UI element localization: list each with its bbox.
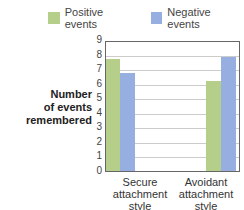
bar-negative xyxy=(120,73,135,171)
y-tick-label: 8 xyxy=(92,49,102,60)
y-tick-label: 4 xyxy=(92,107,102,118)
y-tick-label: 3 xyxy=(92,121,102,132)
legend-item-positive: Positive events xyxy=(48,6,137,30)
x-label-avoidant: Avoidant attachment style xyxy=(171,176,241,210)
bar-positive xyxy=(206,81,221,171)
bar-negative xyxy=(221,57,236,171)
x-label-secure: Secure attachment style xyxy=(105,176,175,210)
legend: Positive events Negative events xyxy=(48,6,244,30)
y-tick-label: 9 xyxy=(92,34,102,45)
plot-area xyxy=(105,41,240,172)
x-label-line: Avoidant xyxy=(171,176,241,188)
legend-label-negative: Negative events xyxy=(167,6,244,30)
y-tick-label: 0 xyxy=(92,165,102,176)
y-tick-label: 2 xyxy=(92,136,102,147)
y-tick-label: 5 xyxy=(92,92,102,103)
y-axis-label-line: Number xyxy=(0,88,92,101)
x-label-line: style xyxy=(171,200,241,210)
y-axis-label-line: of events xyxy=(0,101,92,114)
bar-positive xyxy=(105,59,120,171)
x-label-line: attachment xyxy=(105,188,175,200)
y-axis-label-line: remembered xyxy=(0,114,92,127)
legend-item-negative: Negative events xyxy=(151,6,244,30)
y-axis-line xyxy=(105,41,106,172)
gridline xyxy=(105,56,239,57)
positive-swatch xyxy=(48,12,60,24)
gridline xyxy=(105,70,239,71)
y-tick-label: 1 xyxy=(92,150,102,161)
legend-label-positive: Positive events xyxy=(65,6,137,30)
x-label-line: Secure xyxy=(105,176,175,188)
x-label-line: style xyxy=(105,200,175,210)
negative-swatch xyxy=(151,12,163,24)
x-label-line: attachment xyxy=(171,188,241,200)
y-tick-label: 6 xyxy=(92,78,102,89)
y-axis-label: Number of events remembered xyxy=(0,88,92,127)
y-tick-label: 7 xyxy=(92,63,102,74)
